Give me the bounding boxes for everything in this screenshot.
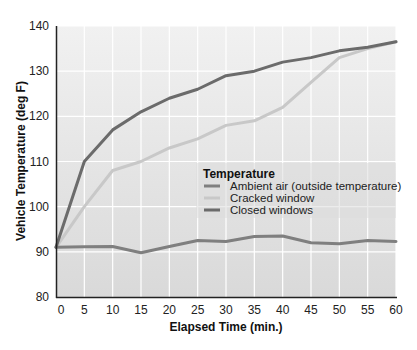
x-tick-label: 45 xyxy=(304,303,318,317)
y-tick-label: 80 xyxy=(36,290,50,304)
y-tick-label: 90 xyxy=(36,245,50,259)
x-tick-label: 10 xyxy=(106,303,120,317)
y-tick-label: 120 xyxy=(29,109,49,123)
x-tick-label: 40 xyxy=(276,303,290,317)
y-tick-labels: 8090100110120130140 xyxy=(29,19,49,304)
y-tick-label: 100 xyxy=(29,200,49,214)
legend-label: Closed windows xyxy=(230,204,313,216)
x-tick-label: 60 xyxy=(389,303,403,317)
x-tick-label: 30 xyxy=(219,303,233,317)
x-tick-label: 15 xyxy=(134,303,148,317)
y-tick-label: 110 xyxy=(30,155,49,169)
legend-label: Ambient air (outside temperature) xyxy=(230,180,401,192)
legend: Temperature Ambient air (outside tempera… xyxy=(196,163,401,218)
legend-title: Temperature xyxy=(203,167,275,181)
legend-label: Cracked window xyxy=(230,192,315,204)
x-tick-label: 55 xyxy=(361,303,375,317)
x-tick-label: 20 xyxy=(163,303,177,317)
x-tick-label: 50 xyxy=(333,303,347,317)
x-axis-title: Elapsed Time (min.) xyxy=(169,320,282,334)
y-tick-label: 140 xyxy=(29,19,49,33)
x-tick-labels: 051015202530354045505560 xyxy=(58,303,403,317)
x-tick-label: 25 xyxy=(191,303,205,317)
x-tick-label: 0 xyxy=(58,303,65,317)
y-tick-label: 130 xyxy=(29,64,49,78)
x-tick-label: 35 xyxy=(248,303,262,317)
x-tick-label: 5 xyxy=(81,303,88,317)
line-chart: 8090100110120130140 05101520253035404550… xyxy=(0,0,417,350)
y-axis-title: Vehicle Temperature (deg F) xyxy=(14,81,28,241)
